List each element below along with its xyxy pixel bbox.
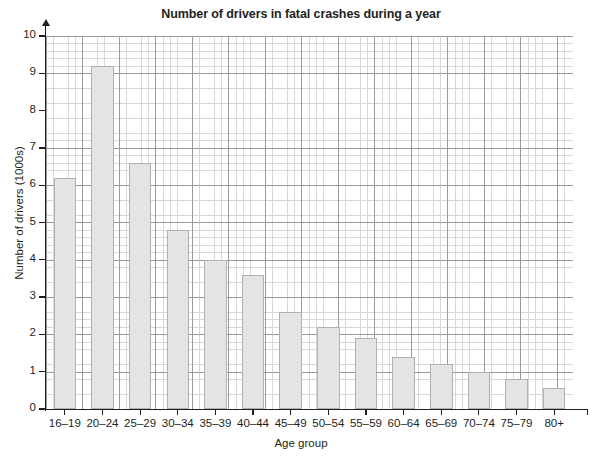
bar <box>279 312 302 409</box>
y-axis-tick-label: 1 <box>10 364 36 376</box>
x-axis-tick <box>554 409 555 415</box>
x-axis-tick <box>102 409 103 415</box>
x-axis-tick <box>290 409 291 415</box>
x-axis-tick <box>441 409 442 415</box>
plot-area-grid <box>46 36 573 409</box>
y-axis-tick <box>39 259 46 260</box>
y-axis-tick <box>39 110 46 111</box>
x-axis-tick <box>516 409 517 415</box>
bar <box>468 372 491 409</box>
y-axis-tick-label: 10 <box>10 28 36 40</box>
y-axis-tick <box>39 371 46 372</box>
bar <box>167 230 190 409</box>
chart-title: Number of drivers in fatal crashes durin… <box>0 7 602 21</box>
y-axis-tick <box>39 185 46 186</box>
bar <box>91 66 114 409</box>
x-axis-title: Age group <box>0 437 602 449</box>
x-axis-tick <box>365 409 366 415</box>
x-axis-tick <box>64 409 65 415</box>
bar <box>543 388 566 409</box>
bar <box>505 379 528 409</box>
x-axis-tick <box>478 409 479 415</box>
bar <box>355 338 378 409</box>
x-axis-tick <box>328 409 329 415</box>
y-axis-tick <box>39 408 46 409</box>
x-axis-tick <box>403 409 404 415</box>
y-axis-line <box>45 24 46 411</box>
y-axis-tick <box>39 147 46 148</box>
x-axis-line <box>45 409 588 410</box>
bar <box>430 364 453 409</box>
bar <box>392 357 415 409</box>
bar <box>129 163 152 409</box>
y-axis-tick <box>39 334 46 335</box>
y-axis-tick <box>39 222 46 223</box>
x-axis-tick <box>140 409 141 415</box>
y-axis-tick <box>39 296 46 297</box>
bar <box>242 275 265 409</box>
bar <box>204 260 227 409</box>
y-axis-tick-label: 9 <box>10 65 36 77</box>
x-axis-tick <box>177 409 178 415</box>
bar-chart: Number of drivers in fatal crashes durin… <box>0 0 602 461</box>
y-axis-arrow-icon <box>42 19 50 26</box>
y-axis-tick-label: 0 <box>10 401 36 413</box>
bar <box>317 327 340 409</box>
y-axis-title: Number of drivers (1000s) <box>13 88 25 338</box>
y-axis-tick <box>39 35 46 36</box>
x-axis-tick <box>215 409 216 415</box>
x-axis-category-label: 80+ <box>524 417 584 429</box>
y-axis-tick <box>39 73 46 74</box>
x-axis-tick <box>252 409 253 415</box>
bar <box>54 178 77 409</box>
x-axis-end-tick <box>587 409 588 415</box>
